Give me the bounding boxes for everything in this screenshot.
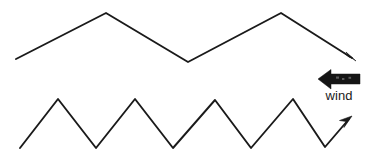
diagram-background	[0, 0, 373, 162]
wind-arrow-speck-c	[349, 77, 352, 79]
wind-arrow-speck-a	[336, 77, 339, 79]
wave-diagram-canvas: wind	[0, 0, 373, 162]
wind-arrow-speck-b	[342, 78, 344, 80]
wind-label: wind	[324, 88, 352, 103]
